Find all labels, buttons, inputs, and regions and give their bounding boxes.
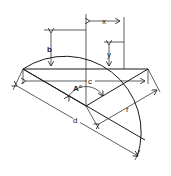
- segment-diagram: x y b c A° r d: [0, 0, 171, 176]
- b-label: b: [47, 45, 52, 54]
- r-label: r: [126, 105, 129, 114]
- angle-label: A°: [73, 84, 82, 93]
- circle-arc: [23, 56, 141, 157]
- y-label: y: [107, 50, 111, 59]
- d-label: d: [73, 116, 77, 125]
- r-upper-tick: [148, 69, 160, 92]
- x-label: x: [102, 17, 106, 26]
- c-label: c: [88, 77, 92, 86]
